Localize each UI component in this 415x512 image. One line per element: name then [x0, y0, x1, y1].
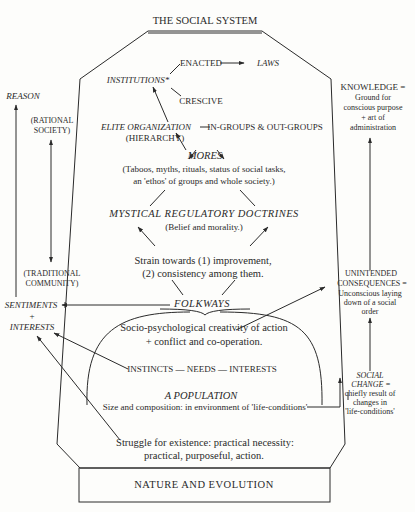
right-knowledge-3: conscious purpose — [344, 104, 403, 112]
node-folkways: FOLKWAYS — [174, 299, 230, 310]
right-unintended-3: Unconscious laying — [338, 290, 401, 298]
diagram-title: THE SOCIAL SYSTEM — [153, 16, 258, 27]
right-knowledge-2: Ground for — [355, 94, 391, 102]
node-crescive: CRESCIVE — [179, 97, 223, 106]
node-laws: LAWS — [257, 59, 279, 68]
nature-and-evolution: NATURE AND EVOLUTION — [134, 480, 274, 491]
node-mores: MORES — [188, 151, 222, 162]
right-unintended-5: order — [362, 308, 379, 316]
node-mores-desc-1: (Taboos, myths, rituals, status of socia… — [123, 165, 286, 174]
right-social-change-3: chiefly result of — [345, 390, 396, 398]
node-population-desc: Size and composition: in environment of … — [103, 403, 308, 412]
left-rational-2: SOCIETY) — [34, 127, 70, 135]
right-unintended-4: down of a social — [344, 299, 397, 307]
node-socio-2: + conflict and co-operation. — [146, 337, 263, 348]
node-enacted: ENACTED — [180, 59, 222, 68]
left-plus: + — [29, 312, 34, 321]
left-reason: REASON — [6, 92, 40, 101]
right-unintended-1: UNINTENDED — [345, 270, 397, 278]
right-social-change-1: SOCIAL — [356, 372, 383, 380]
right-knowledge-5: administration — [350, 124, 396, 132]
node-struggle-1: Struggle for existence: practical necess… — [116, 438, 294, 449]
social-system-diagram: THE SOCIAL SYSTEM ENACTED LAWS INSTITUTI… — [0, 0, 415, 512]
right-social-change-5: 'life-conditions' — [345, 408, 395, 416]
node-strain-2: (2) consistency among them. — [142, 269, 263, 280]
left-traditional-1: (TRADITIONAL — [24, 270, 81, 278]
left-interests: INTERESTS — [10, 323, 55, 332]
right-knowledge-1: KNOWLEDGE = — [341, 83, 406, 92]
node-strain-1: Strain towards (1) improvement, — [134, 256, 271, 267]
node-population: A POPULATION — [165, 391, 238, 402]
right-knowledge-4: + art of — [361, 114, 385, 122]
node-socio-1: Socio-psychological creativity of action — [120, 323, 288, 334]
right-unintended-2: CONSEQUENCES = — [337, 280, 407, 288]
node-mystical-desc: (Belief and morality.) — [165, 223, 243, 232]
left-sentiments: SENTIMENTS — [5, 301, 58, 310]
left-rational-1: (RATIONAL — [31, 117, 74, 125]
node-hierarchy: (HIERARCHY) — [126, 134, 185, 143]
node-mystical-doctrines: MYSTICAL REGULATORY DOCTRINES — [109, 209, 299, 220]
node-instincts: INSTINCTS — NEEDS — INTERESTS — [127, 365, 277, 374]
node-institutions: INSTITUTIONS* — [107, 76, 170, 85]
node-struggle-2: practical, purposeful, action. — [144, 451, 264, 462]
node-elite-organization: ELITE ORGANIZATION — [101, 123, 191, 132]
node-mores-desc-2: an 'ethos' of groups and whole society.) — [133, 177, 274, 186]
right-social-change-2: CHANGE = — [351, 381, 390, 389]
node-in-groups: IN-GROUPS & OUT-GROUPS — [207, 123, 323, 132]
right-social-change-4: changes in — [353, 399, 387, 407]
left-traditional-2: COMMUNITY) — [26, 280, 79, 288]
